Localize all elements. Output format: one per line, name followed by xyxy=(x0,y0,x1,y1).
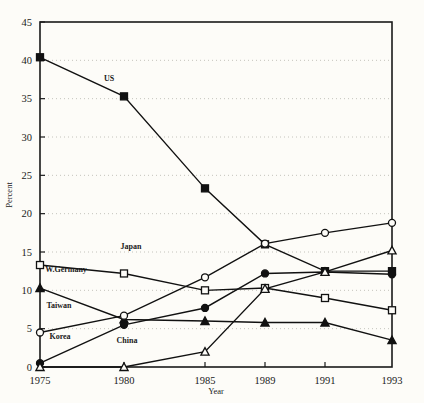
data-point-1975 xyxy=(37,262,44,269)
data-point-1991 xyxy=(322,295,329,302)
y-tick-label-25: 25 xyxy=(22,170,33,181)
data-point-1993 xyxy=(389,219,396,226)
data-point-1991 xyxy=(322,229,329,236)
line-chart-figure: 051015202530354045 197519801985198919911… xyxy=(0,0,424,403)
x-tick-label-1991: 1991 xyxy=(315,375,336,386)
x-axis-title: Year xyxy=(208,386,224,396)
data-point-1985 xyxy=(202,185,209,192)
data-point-1989 xyxy=(262,270,269,277)
data-point-1989 xyxy=(262,240,269,247)
data-point-1980 xyxy=(121,312,128,319)
x-tick-label-1980: 1980 xyxy=(114,375,135,386)
data-point-1993 xyxy=(389,307,396,314)
data-point-1993 xyxy=(389,271,396,278)
series-label-korea: Korea xyxy=(49,332,70,341)
y-tick-label-15: 15 xyxy=(22,247,33,258)
series-label-china: China xyxy=(117,336,138,345)
x-tick-label-1985: 1985 xyxy=(195,375,216,386)
data-point-1980 xyxy=(121,93,128,100)
y-axis-title: Percent xyxy=(4,182,14,208)
y-tick-label-20: 20 xyxy=(22,208,33,219)
data-point-1975 xyxy=(37,329,44,336)
series-label-us: US xyxy=(104,74,115,83)
series-label-taiwan: Taiwan xyxy=(46,301,72,310)
chart-canvas: 051015202530354045 197519801985198919911… xyxy=(0,0,424,403)
y-tick-label-40: 40 xyxy=(22,55,33,66)
data-point-1980 xyxy=(121,321,128,328)
data-point-1985 xyxy=(202,287,209,294)
x-tick-label-1989: 1989 xyxy=(255,375,276,386)
data-point-1985 xyxy=(202,274,209,281)
y-tick-label-0: 0 xyxy=(27,362,32,373)
x-tick-label-1993: 1993 xyxy=(382,375,403,386)
series-label-w-germany: W.Germany xyxy=(45,265,87,274)
data-point-1985 xyxy=(202,304,209,311)
x-tick-label-1975: 1975 xyxy=(30,375,51,386)
y-tick-label-45: 45 xyxy=(22,17,33,28)
y-tick-label-5: 5 xyxy=(27,323,32,334)
y-tick-label-10: 10 xyxy=(22,285,33,296)
series-label-japan: Japan xyxy=(121,242,142,251)
data-point-1975 xyxy=(37,54,44,61)
y-tick-label-35: 35 xyxy=(22,93,33,104)
data-point-1980 xyxy=(121,270,128,277)
y-tick-label-30: 30 xyxy=(22,132,33,143)
